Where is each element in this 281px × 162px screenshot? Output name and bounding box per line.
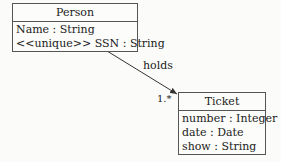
multiplicity-label: 1.* — [157, 93, 172, 104]
ticket-attribute-show: show : String — [182, 140, 263, 154]
ticket-attribute-date: date : Date — [182, 126, 263, 140]
ticket-attribute-number: number : Integer — [182, 112, 263, 126]
ticket-attributes: number : Integer date : Date show : Stri… — [179, 111, 265, 156]
person-attributes: Name : String <<unique>> SSN : String — [13, 22, 137, 53]
ticket-class-box[interactable]: Ticket number : Integer date : Date show… — [178, 92, 266, 155]
association-line[interactable] — [107, 51, 177, 94]
person-attribute-ssn: <<unique>> SSN : String — [16, 37, 135, 51]
person-class-name: Person — [13, 4, 137, 22]
person-class-box[interactable]: Person Name : String <<unique>> SSN : St… — [12, 3, 138, 52]
person-attribute-name: Name : String — [16, 23, 135, 37]
ticket-class-name: Ticket — [179, 93, 265, 111]
association-label: holds — [143, 59, 173, 72]
